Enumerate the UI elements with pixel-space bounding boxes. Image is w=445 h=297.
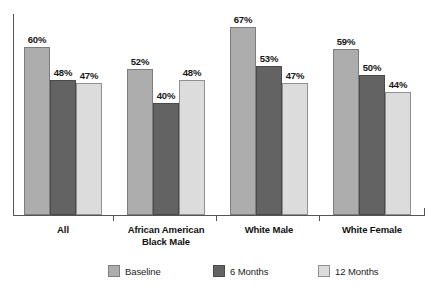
bar-value-label: 52% (122, 56, 158, 67)
bar-value-label: 47% (277, 70, 313, 81)
bar-3-2 (385, 92, 411, 215)
legend-item-2[interactable]: 12 Months (318, 262, 378, 280)
bar-value-label: 60% (19, 34, 55, 45)
group-label-1: African AmericanBlack Male (109, 224, 223, 248)
legend-swatch-icon (318, 265, 330, 277)
legend-item-1[interactable]: 6 Months (213, 262, 268, 280)
bar-chart: 60%48%47%52%40%48%67%53%47%59%50%44% All… (0, 0, 445, 297)
group-label-2: White Male (212, 224, 326, 236)
bar-value-label: 53% (251, 53, 287, 64)
legend-label: 12 Months (335, 266, 378, 277)
legend-label: Baseline (125, 266, 161, 277)
group-label-line: African American (109, 224, 223, 236)
group-label-line: White Male (212, 224, 326, 236)
bar-1-2 (179, 80, 205, 215)
bar-1-1 (153, 103, 179, 215)
bar-3-1 (359, 75, 385, 215)
chart-legend: Baseline6 Months12 Months (0, 262, 445, 284)
bars-layer: 60%48%47%52%40%48%67%53%47%59%50%44% (13, 14, 425, 216)
bar-value-label: 67% (225, 14, 261, 25)
group-label-line: Black Male (109, 236, 223, 248)
group-label-line: White Female (315, 224, 429, 236)
bar-value-label: 47% (71, 70, 107, 81)
legend-item-0[interactable]: Baseline (108, 262, 161, 280)
bar-value-label: 59% (328, 36, 364, 47)
bar-2-1 (256, 66, 282, 215)
group-label-line: All (6, 224, 120, 236)
legend-swatch-icon (213, 265, 225, 277)
group-label-0: All (6, 224, 120, 236)
bar-value-label: 50% (354, 62, 390, 73)
bar-2-2 (282, 83, 308, 215)
bar-3-0 (333, 49, 359, 215)
bar-0-2 (76, 83, 102, 215)
legend-label: 6 Months (230, 266, 268, 277)
group-label-3: White Female (315, 224, 429, 236)
bar-value-label: 44% (380, 79, 416, 90)
legend-swatch-icon (108, 265, 120, 277)
bar-0-1 (50, 80, 76, 215)
bar-value-label: 48% (174, 67, 210, 78)
